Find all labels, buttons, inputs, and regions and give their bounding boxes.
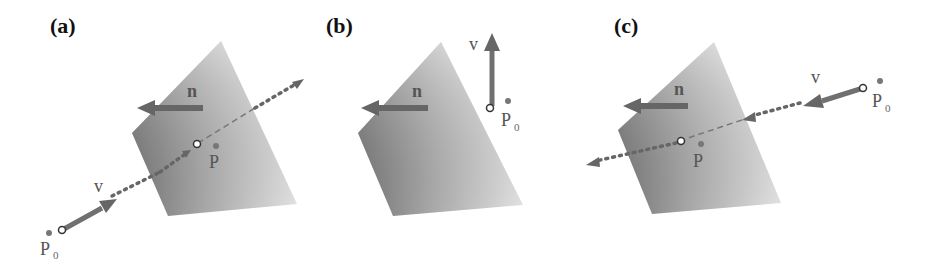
v-label-c: v bbox=[811, 67, 820, 87]
ray-origin-c bbox=[860, 85, 867, 92]
p0-subscript-c: 0 bbox=[885, 102, 891, 114]
ray-c-upper bbox=[755, 103, 800, 115]
n-label-b: n bbox=[412, 81, 422, 101]
n-label-c: n bbox=[674, 79, 684, 99]
ray-origin-a bbox=[59, 227, 66, 234]
plane-b bbox=[358, 42, 523, 216]
p0-label-b: P bbox=[501, 110, 511, 130]
point-p-a bbox=[213, 143, 219, 149]
point-p-c bbox=[698, 141, 704, 147]
plane-a bbox=[132, 41, 297, 216]
vector-n-c-arrowhead-icon bbox=[623, 98, 641, 114]
vector-v-c-arrowhead-icon bbox=[803, 94, 824, 108]
point-p0-a bbox=[46, 230, 52, 236]
p0-subscript-b: 0 bbox=[514, 121, 520, 133]
ray-a-arrowhead-icon bbox=[292, 79, 304, 89]
ray-c-arrowhead-icon bbox=[586, 157, 600, 167]
v-label-a: v bbox=[94, 176, 103, 196]
p-label-a: P bbox=[209, 152, 219, 172]
point-p0-c bbox=[877, 78, 883, 84]
panel-b: (b) n v P 0 bbox=[326, 13, 523, 216]
figure-canvas: (a) v n P 0 P (b) bbox=[0, 0, 931, 268]
panel-b-label: (b) bbox=[326, 13, 353, 38]
panel-c: (c) v n P 0 P bbox=[586, 13, 891, 214]
p0-label-a: P bbox=[40, 239, 50, 259]
panel-a: (a) v n P 0 P bbox=[40, 13, 304, 261]
panel-a-label: (a) bbox=[50, 13, 76, 38]
point-p0-b bbox=[505, 98, 511, 104]
ray-origin-b bbox=[487, 105, 494, 112]
vector-v-a bbox=[64, 208, 102, 229]
vector-v-c bbox=[822, 89, 860, 101]
n-label-a: n bbox=[187, 81, 197, 101]
intersection-marker-a bbox=[194, 141, 201, 148]
ray-a-upper bbox=[255, 85, 294, 108]
p0-subscript-a: 0 bbox=[53, 249, 59, 261]
panel-c-label: (c) bbox=[614, 13, 638, 38]
p0-label-c: P bbox=[872, 91, 882, 111]
v-label-b: v bbox=[469, 34, 478, 54]
plane-c bbox=[618, 42, 781, 214]
intersection-marker-c bbox=[678, 138, 685, 145]
ray-a-lower bbox=[112, 172, 160, 196]
p-label-c: P bbox=[693, 151, 703, 171]
vector-n-b-arrowhead-icon bbox=[361, 100, 379, 116]
vector-v-b-arrowhead-icon bbox=[484, 33, 500, 51]
vector-n-a-arrowhead-icon bbox=[137, 100, 155, 116]
